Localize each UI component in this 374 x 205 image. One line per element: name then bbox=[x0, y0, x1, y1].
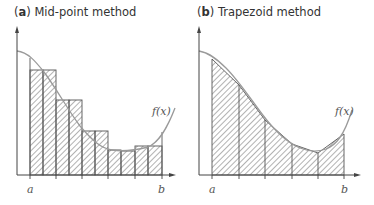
integration-diagram bbox=[0, 0, 374, 205]
panel-b-title: (b) Trapezoid method bbox=[197, 5, 321, 19]
panel-a-a-label: a bbox=[27, 183, 34, 196]
midpoint-rectangles bbox=[30, 70, 162, 175]
panel-b-b-label: b bbox=[341, 183, 348, 196]
panel-trapezoid bbox=[197, 26, 361, 179]
panel-a-b-label: b bbox=[158, 183, 165, 196]
trapezoids bbox=[212, 59, 344, 175]
panel-a-function-label: f(x) bbox=[152, 105, 171, 118]
panel-a-title: (a) Mid-point method bbox=[14, 5, 136, 19]
panel-midpoint bbox=[15, 26, 176, 179]
panel-b-a-label: a bbox=[209, 183, 216, 196]
panel-b-function-label: f(x) bbox=[335, 105, 354, 118]
